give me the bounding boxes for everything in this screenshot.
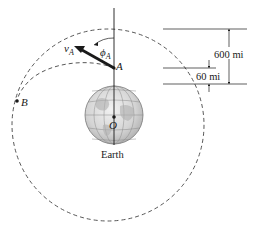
center-o-label: O: [109, 119, 117, 131]
earth-label: Earth: [101, 149, 124, 160]
dimension-600-mi: 600 mi: [214, 49, 244, 60]
velocity-label: vA: [64, 42, 74, 57]
point-b-label: B: [21, 96, 28, 108]
orbit-diagram: vA ϕA A B O Earth 600 mi 60 mi: [0, 0, 257, 235]
angle-label: ϕA: [100, 46, 111, 61]
dimension-lines: [163, 29, 247, 92]
dimension-60-mi: 60 mi: [196, 71, 220, 82]
angle-arc-arrowhead: [94, 42, 98, 46]
point-b: [15, 99, 19, 103]
point-a-label: A: [115, 60, 123, 72]
